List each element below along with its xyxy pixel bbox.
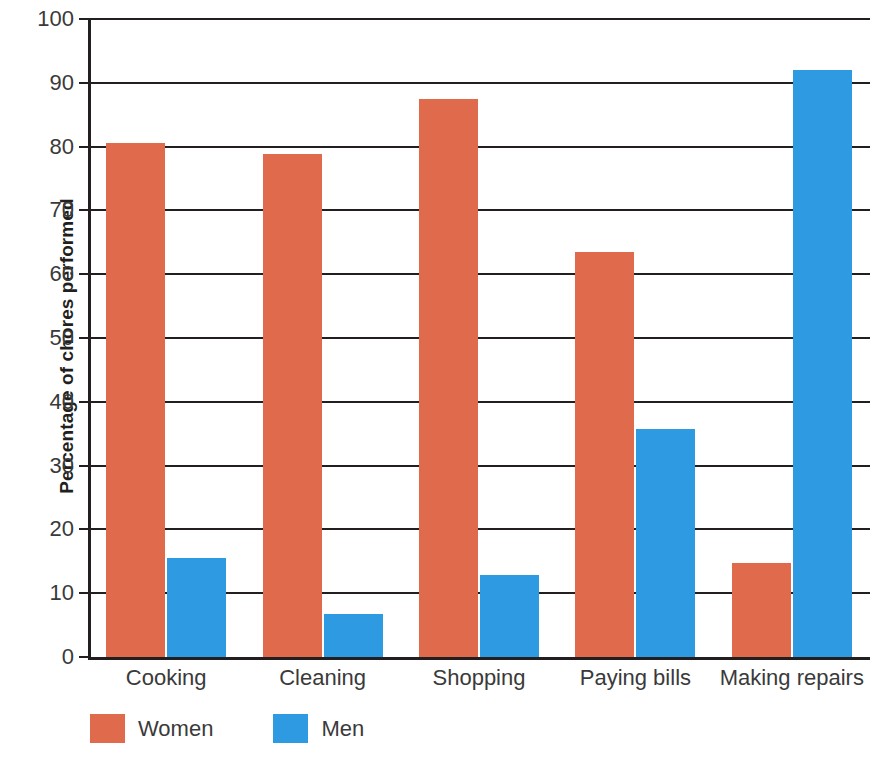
y-tick-label: 0 — [12, 644, 74, 670]
bar-men-cleaning — [324, 614, 383, 657]
legend: WomenMen — [90, 714, 364, 743]
bar-women-cooking — [106, 143, 165, 657]
y-tick-label: 30 — [12, 453, 74, 479]
y-tick-label: 50 — [12, 325, 74, 351]
x-axis-label-paying-bills: Paying bills — [557, 665, 713, 691]
bar-women-making-repairs — [732, 563, 791, 657]
y-tick-label: 20 — [12, 516, 74, 542]
y-tick-label: 90 — [12, 70, 74, 96]
plot-area: 0102030405060708090100 — [88, 19, 870, 657]
bar-men-shopping — [480, 575, 539, 657]
bars-layer — [88, 19, 870, 657]
bar-women-cleaning — [263, 154, 322, 657]
legend-swatch-men — [273, 714, 308, 743]
y-tick-label: 70 — [12, 197, 74, 223]
legend-label-men: Men — [321, 716, 364, 742]
x-axis-line — [88, 657, 870, 660]
bar-men-cooking — [167, 558, 226, 657]
legend-item-men: Men — [273, 714, 364, 743]
y-tick-label: 100 — [12, 6, 74, 32]
legend-swatch-women — [90, 714, 125, 743]
bar-men-making-repairs — [793, 70, 852, 657]
legend-label-women: Women — [138, 716, 213, 742]
bar-chart: Percentage of chores performed 010203040… — [0, 0, 875, 763]
y-tick-label: 60 — [12, 261, 74, 287]
x-axis-label-making-repairs: Making repairs — [714, 665, 870, 691]
x-axis-label-cleaning: Cleaning — [244, 665, 400, 691]
bar-women-paying-bills — [575, 252, 634, 657]
x-axis-category-labels: CookingCleaningShoppingPaying billsMakin… — [88, 665, 870, 699]
x-axis-label-cooking: Cooking — [88, 665, 244, 691]
y-tick-label: 40 — [12, 389, 74, 415]
x-axis-label-shopping: Shopping — [401, 665, 557, 691]
bar-men-paying-bills — [636, 429, 695, 657]
legend-item-women: Women — [90, 714, 213, 743]
y-tick-label: 80 — [12, 134, 74, 160]
bar-women-shopping — [419, 99, 478, 657]
y-tick-label: 10 — [12, 580, 74, 606]
